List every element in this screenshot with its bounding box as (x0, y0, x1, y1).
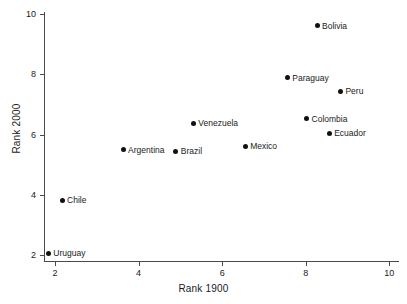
data-point-label: Colombia (312, 114, 348, 124)
scatter-chart-figure: 246810 246810 UruguayChileArgentinaBrazi… (0, 0, 407, 304)
data-point-label: Bolivia (322, 21, 347, 31)
data-point-label: Mexico (250, 141, 277, 151)
data-point-label: Brazil (181, 146, 202, 156)
data-point-label: Chile (67, 195, 86, 205)
plot-area: UruguayChileArgentinaBrazilVenezuelaMexi… (0, 0, 407, 304)
data-point-label: Uruguay (53, 248, 85, 258)
data-point-marker (304, 116, 309, 121)
data-point-marker (285, 75, 290, 80)
data-point-marker (60, 198, 65, 203)
data-point-label: Ecuador (334, 128, 366, 138)
data-point-marker (191, 121, 196, 126)
data-point-label: Peru (345, 86, 363, 96)
y-axis-title: Rank 2000 (11, 69, 22, 189)
data-point-label: Venezuela (198, 118, 238, 128)
data-point-marker (327, 131, 332, 136)
data-point-marker (315, 23, 320, 28)
data-point-marker (121, 147, 126, 152)
data-point-marker (243, 144, 248, 149)
data-point-label: Paraguay (292, 73, 328, 83)
data-point-marker (173, 149, 178, 154)
x-axis-title: Rank 1900 (0, 283, 407, 294)
data-point-marker (338, 89, 343, 94)
data-point-label: Argentina (128, 145, 164, 155)
data-point-marker (46, 251, 51, 256)
